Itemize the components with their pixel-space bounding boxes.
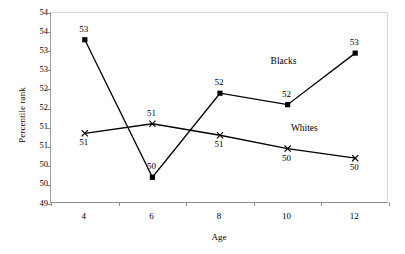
- y-tick-label: 54: [28, 8, 48, 17]
- data-point-label: 51: [74, 138, 94, 147]
- chart-figure: Percentile rank 5454535352525151505049 A…: [0, 0, 405, 254]
- data-point-label: 52: [209, 78, 229, 87]
- data-point-label: 53: [74, 25, 94, 34]
- y-tick-label: 52: [28, 103, 48, 112]
- x-tick-label: 8: [206, 211, 232, 221]
- series-line-blacks: [85, 40, 355, 178]
- y-tick-label: 51: [28, 122, 48, 131]
- y-tick-label: 53: [28, 46, 48, 55]
- data-point-marker: [353, 51, 358, 56]
- plot-area: [50, 12, 388, 203]
- x-tick-label: 12: [341, 211, 367, 221]
- y-axis-tick: [47, 70, 51, 71]
- x-axis-tick: [51, 202, 52, 206]
- y-axis-tick: [47, 89, 51, 90]
- x-axis-tick: [389, 202, 390, 206]
- data-point-label: 51: [141, 109, 161, 118]
- data-point-marker: [285, 102, 290, 107]
- x-axis-tick: [254, 202, 255, 206]
- data-point-label: 53: [344, 38, 364, 47]
- series-annotation: Whites: [291, 123, 318, 133]
- y-tick-label: 51: [28, 141, 48, 150]
- x-tick-label: 6: [138, 211, 164, 221]
- y-axis-tick: [47, 128, 51, 129]
- clipped-footer-text: [8, 246, 398, 254]
- x-axis-tick: [186, 202, 187, 206]
- y-tick-label: 50: [28, 160, 48, 169]
- series-markers-blacks: [82, 37, 358, 180]
- y-tick-label: 54: [28, 27, 48, 36]
- y-axis-tick: [47, 109, 51, 110]
- x-axis-tick: [119, 202, 120, 206]
- data-point-label: 50: [277, 154, 297, 163]
- y-axis-tick: [47, 185, 51, 186]
- y-axis-tick: [47, 166, 51, 167]
- y-axis-tick: [47, 13, 51, 14]
- y-axis-tick: [47, 51, 51, 52]
- data-point-marker: [217, 91, 222, 96]
- data-point-label: 50: [141, 162, 161, 171]
- series-annotation: Blacks: [271, 56, 297, 66]
- data-point-marker: [82, 37, 87, 42]
- y-tick-label: 49: [28, 199, 48, 208]
- y-axis-tick-labels: 5454535352525151505049: [26, 0, 48, 254]
- data-point-marker: [150, 175, 155, 180]
- data-point-label: 51: [209, 140, 229, 149]
- x-tick-label: 10: [274, 211, 300, 221]
- y-tick-label: 50: [28, 179, 48, 188]
- data-point-label: 52: [277, 90, 297, 99]
- y-axis-tick: [47, 147, 51, 148]
- y-tick-label: 52: [28, 84, 48, 93]
- y-axis-tick: [47, 32, 51, 33]
- series-layer: [51, 13, 389, 204]
- data-point-label: 50: [344, 163, 364, 172]
- x-tick-label: 4: [71, 211, 97, 221]
- x-axis-tick: [321, 202, 322, 206]
- x-axis-title: Age: [50, 232, 388, 242]
- y-tick-label: 53: [28, 65, 48, 74]
